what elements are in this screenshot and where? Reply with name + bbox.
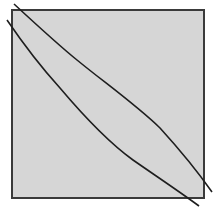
diagram-canvas [0, 0, 216, 213]
gray-square [12, 10, 204, 198]
